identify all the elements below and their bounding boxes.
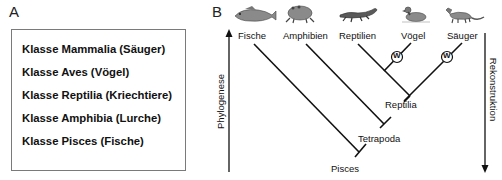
taxon-label-saeuger: Säuger bbox=[447, 30, 478, 41]
branch-saeuger bbox=[404, 43, 462, 101]
node-label-tetrapoda: Tetrapoda bbox=[358, 133, 400, 144]
fish-icon bbox=[235, 6, 276, 21]
rekonstruktion-label: Rekonstruktion bbox=[488, 55, 499, 125]
taxon-label-voegel: Vögel bbox=[401, 30, 425, 41]
taxon-label-amphibien: Amphibien bbox=[283, 30, 328, 41]
duck-icon bbox=[402, 7, 430, 22]
frog-icon bbox=[286, 6, 314, 24]
taxon-label-fische: Fische bbox=[238, 30, 266, 41]
mammal-icon bbox=[446, 8, 484, 23]
cladogram bbox=[0, 0, 502, 180]
phylogenese-label: Phylogenese bbox=[215, 72, 226, 132]
lizard-icon bbox=[340, 9, 377, 23]
marker-w-voegel-label: W bbox=[393, 51, 401, 60]
node-label-pisces: Pisces bbox=[331, 163, 359, 174]
node-label-reptilia: Reptilia bbox=[385, 99, 417, 110]
marker-w-saeuger-label: W bbox=[443, 51, 451, 60]
branch-fische bbox=[254, 44, 359, 152]
branch-amphibien bbox=[306, 44, 384, 124]
taxon-label-reptilien: Reptilien bbox=[339, 30, 376, 41]
phylogenese-arrow bbox=[226, 29, 233, 172]
